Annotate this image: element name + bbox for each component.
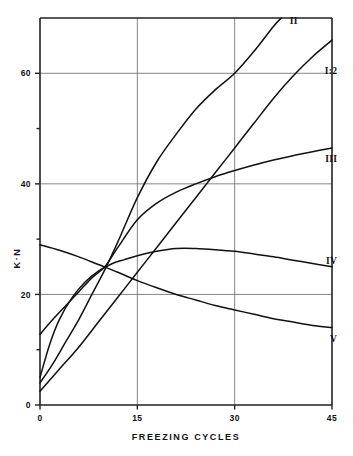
series-label-v: V — [330, 334, 337, 344]
x-axis-title: FREEZING CYCLES — [132, 432, 241, 442]
x-tick-label: 45 — [327, 413, 337, 423]
y-axis-title: K·N — [12, 248, 22, 269]
x-tick-label: 15 — [132, 413, 142, 423]
y-tick-label: 60 — [21, 68, 31, 78]
y-tick-label: 40 — [21, 179, 31, 189]
y-tick-label: 0 — [26, 400, 31, 410]
series-label-ii: II — [290, 16, 298, 26]
x-tick-label: 0 — [37, 413, 42, 423]
freezing-cycles-line-chart: 0153045 0204060 III:2IIIIVV FREEZING CYC… — [0, 0, 353, 456]
series-label-iii: III — [325, 154, 337, 164]
y-tick-label: 20 — [21, 290, 31, 300]
x-tick-label: 30 — [230, 413, 240, 423]
chart-figure: 0153045 0204060 III:2IIIIVV FREEZING CYC… — [0, 0, 353, 456]
series-label-iv: IV — [326, 256, 337, 266]
series-label-i-2: I:2 — [325, 66, 338, 76]
